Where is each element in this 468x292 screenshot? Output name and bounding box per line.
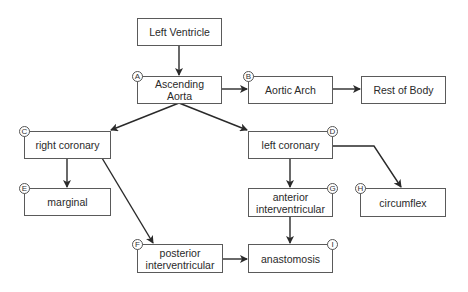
- node-marginal: marginal: [24, 188, 111, 216]
- node-label: Aortic Arch: [265, 84, 316, 96]
- node-left-coronary: left coronary: [248, 131, 333, 159]
- badge-i: I: [327, 239, 338, 250]
- badge-b: B: [243, 71, 254, 82]
- node-label: Rest of Body: [373, 84, 433, 96]
- node-left-ventricle: Left Ventricle: [137, 18, 222, 46]
- node-posterior-interventricular: posterior interventricular: [137, 244, 223, 273]
- badge-a: A: [132, 71, 143, 82]
- badge-g: G: [327, 183, 338, 194]
- node-label: anterior interventricular: [250, 191, 332, 215]
- edge-aa-lc: [179, 103, 247, 130]
- badge-c: C: [19, 126, 30, 137]
- node-label: left coronary: [262, 139, 320, 151]
- node-ascending-aorta: Ascending Aorta: [137, 76, 222, 104]
- badge-h: H: [355, 183, 366, 194]
- badge-e: E: [19, 183, 30, 194]
- node-label: Ascending Aorta: [150, 78, 210, 102]
- badge-f: F: [132, 239, 143, 250]
- node-anterior-interventricular: anterior interventricular: [248, 188, 333, 217]
- node-circumflex: circumflex: [360, 188, 446, 217]
- edge-aa-rc: [111, 103, 179, 130]
- node-anastomosis: anastomosis: [248, 244, 333, 273]
- badge-d: D: [327, 126, 338, 137]
- node-right-coronary: right coronary: [24, 131, 111, 159]
- node-label: posterior interventricular: [139, 247, 221, 271]
- node-label: right coronary: [35, 139, 99, 151]
- node-label: Left Ventricle: [149, 26, 210, 38]
- node-rest-of-body: Rest of Body: [361, 76, 446, 104]
- node-aortic-arch: Aortic Arch: [248, 76, 333, 104]
- node-label: circumflex: [379, 197, 426, 209]
- node-label: anastomosis: [261, 253, 320, 265]
- node-label: marginal: [47, 196, 87, 208]
- edge-lc-cx: [332, 146, 401, 187]
